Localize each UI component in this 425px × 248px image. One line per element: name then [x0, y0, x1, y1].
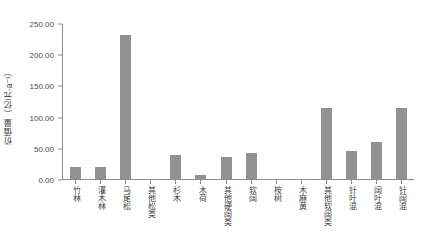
bar-slot — [364, 24, 389, 179]
bar — [246, 153, 257, 179]
x-tick-label: 杉木 — [172, 186, 180, 202]
x-tick-slot — [289, 180, 314, 184]
x-tick-mark — [251, 180, 252, 184]
y-tick-label: 250.00 — [30, 20, 54, 29]
x-tick-label: 针叶混 — [347, 186, 355, 210]
x-tick-slot — [188, 180, 213, 184]
bar-slot — [264, 24, 289, 179]
x-tick-mark — [226, 180, 227, 184]
x-tick-label: 针阔混 — [397, 186, 405, 210]
bar-slot — [314, 24, 339, 179]
bar — [346, 151, 357, 179]
y-tick-label: 50.00 — [34, 144, 54, 153]
bar-slot — [88, 24, 113, 179]
bar-slot — [213, 24, 238, 179]
bar — [120, 35, 131, 179]
x-label-slot: 竹林 — [63, 186, 88, 242]
x-tick-label: 其他软阔类 — [322, 186, 330, 226]
x-tick-slot — [239, 180, 264, 184]
bar-slot — [389, 24, 414, 179]
x-tick-slot — [364, 180, 389, 184]
x-tick-slot — [314, 180, 339, 184]
bar-slot — [289, 24, 314, 179]
bar — [321, 108, 332, 179]
x-axis-tick-labels: 竹林灌木林马尾松其他松类杉木木荷其他硬阔类软阔桉树木麻黄其他软阔类针叶混阔叶混针… — [63, 186, 414, 242]
x-label-slot: 阔叶混 — [364, 186, 389, 242]
x-label-slot: 针阔混 — [389, 186, 414, 242]
x-tick-mark — [150, 180, 151, 184]
bar — [70, 167, 81, 179]
x-tick-slot — [339, 180, 364, 184]
x-label-slot: 其他松类 — [138, 186, 163, 242]
x-tick-slot — [213, 180, 238, 184]
x-tick-label: 灌木林 — [97, 186, 105, 210]
x-tick-mark — [175, 180, 176, 184]
x-label-slot: 针叶混 — [339, 186, 364, 242]
bar-slot — [63, 24, 88, 179]
x-label-slot: 其他软阔类 — [314, 186, 339, 242]
bar-series — [63, 24, 414, 179]
x-tick-slot — [163, 180, 188, 184]
y-axis-tick-labels: 0.0050.00100.00150.00200.00250.00 — [18, 24, 58, 180]
x-tick-label: 木荷 — [197, 186, 205, 202]
bar-slot — [138, 24, 163, 179]
x-tick-slot — [264, 180, 289, 184]
chart-figure: 价值量（亿元·a⁻¹） 0.0050.00100.00150.00200.002… — [0, 0, 425, 248]
x-tick-mark — [301, 180, 302, 184]
x-tick-label: 其他松类 — [147, 186, 155, 218]
bar — [371, 142, 382, 179]
y-tick-label: 200.00 — [30, 51, 54, 60]
y-tick-label: 100.00 — [30, 113, 54, 122]
x-tick-label: 其他硬阔类 — [222, 186, 230, 226]
x-label-slot: 软阔 — [239, 186, 264, 242]
bar — [95, 167, 106, 179]
x-tick-label: 阔叶混 — [372, 186, 380, 210]
x-tick-mark — [276, 180, 277, 184]
x-tick-mark — [326, 180, 327, 184]
x-tick-slot — [138, 180, 163, 184]
x-tick-label: 软阔 — [247, 186, 255, 202]
x-tick-label: 木麻黄 — [297, 186, 305, 210]
y-tick-label: 150.00 — [30, 82, 54, 91]
x-tick-slot — [88, 180, 113, 184]
x-label-slot: 桉树 — [264, 186, 289, 242]
bar — [396, 108, 407, 179]
x-tick-slot — [389, 180, 414, 184]
x-tick-label: 竹林 — [71, 186, 79, 202]
x-label-slot: 其他硬阔类 — [213, 186, 238, 242]
x-tick-mark — [125, 180, 126, 184]
x-label-slot: 马尾松 — [113, 186, 138, 242]
bar — [221, 157, 232, 179]
bar-slot — [113, 24, 138, 179]
x-tick-label: 桉树 — [272, 186, 280, 202]
bar — [170, 155, 181, 179]
x-tick-mark — [100, 180, 101, 184]
x-tick-mark — [75, 180, 76, 184]
bar-slot — [239, 24, 264, 179]
x-tick-mark — [401, 180, 402, 184]
x-tick-slot — [113, 180, 138, 184]
y-tick-label: 0.00 — [38, 176, 54, 185]
bar-slot — [339, 24, 364, 179]
y-axis-title: 价值量（亿元·a⁻¹） — [2, 46, 16, 166]
x-tick-mark — [200, 180, 201, 184]
x-tick-slot — [63, 180, 88, 184]
x-label-slot: 杉木 — [163, 186, 188, 242]
x-label-slot: 木麻黄 — [289, 186, 314, 242]
x-tick-label: 马尾松 — [122, 186, 130, 210]
x-label-slot: 木荷 — [188, 186, 213, 242]
bar-slot — [163, 24, 188, 179]
x-tick-mark — [376, 180, 377, 184]
plot-area — [62, 24, 414, 180]
bar — [195, 175, 206, 179]
x-label-slot: 灌木林 — [88, 186, 113, 242]
x-axis-tick-marks — [63, 180, 414, 184]
x-tick-mark — [351, 180, 352, 184]
bar-slot — [188, 24, 213, 179]
bar — [271, 179, 282, 180]
